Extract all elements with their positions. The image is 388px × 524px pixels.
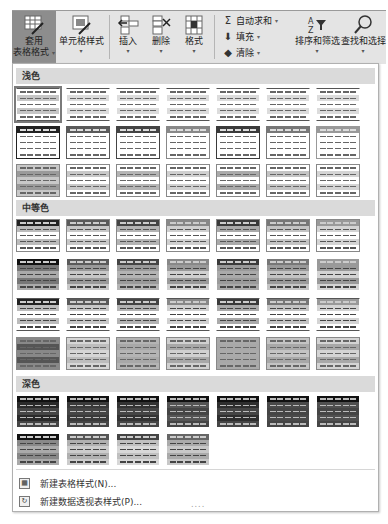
table-style-thumbnail[interactable] [66, 298, 110, 331]
table-style-thumbnail[interactable] [16, 298, 60, 331]
cell-styles-label: 单元格样式 [59, 36, 104, 47]
fill-label: 填充 [236, 30, 254, 43]
chevron-down-icon: ▾ [257, 33, 260, 40]
format-cells-icon [183, 14, 205, 36]
table-style-thumbnail[interactable] [266, 164, 310, 197]
table-style-thumbnail[interactable] [166, 164, 210, 197]
chevron-down-icon: ▾ [79, 47, 82, 54]
table-style-thumbnail[interactable] [216, 395, 260, 428]
insert-cells-icon [117, 14, 139, 36]
table-style-thumbnail[interactable] [166, 395, 210, 428]
chevron-down-icon: ▾ [275, 17, 278, 24]
table-style-thumbnail[interactable] [66, 433, 110, 466]
section-header-light: 浅色 [16, 68, 375, 84]
table-style-thumbnail[interactable] [116, 258, 160, 291]
format-as-table-label-1: 套用 [25, 36, 43, 47]
table-style-thumbnail[interactable] [16, 258, 60, 291]
table-style-thumbnail[interactable] [116, 433, 160, 466]
table-style-thumbnail[interactable] [116, 219, 160, 252]
table-style-thumbnail[interactable] [116, 164, 160, 197]
section-header-dark: 深色 [16, 376, 375, 392]
chevron-down-icon: ▾ [126, 47, 129, 54]
find-select-label: 查找和选择 [341, 36, 386, 47]
sort-filter-button[interactable]: AZ 排序和筛选 ▾ [294, 11, 340, 63]
table-style-thumbnail[interactable] [16, 164, 60, 197]
cell-styles-icon [70, 14, 92, 36]
table-style-thumbnail[interactable] [216, 126, 260, 159]
table-style-thumbnail[interactable] [216, 219, 260, 252]
table-style-thumbnail[interactable] [316, 298, 360, 331]
table-style-thumbnail[interactable] [16, 88, 60, 121]
eraser-icon: ◆ [223, 47, 233, 58]
table-style-thumbnail[interactable] [316, 258, 360, 291]
cell-styles-button[interactable]: 单元格样式 ▾ [57, 11, 105, 63]
table-style-thumbnail[interactable] [216, 258, 260, 291]
table-style-thumbnail[interactable] [66, 164, 110, 197]
table-style-thumbnail[interactable] [316, 219, 360, 252]
table-style-thumbnail[interactable] [266, 88, 310, 121]
table-style-thumbnail[interactable] [116, 298, 160, 331]
table-style-thumbnail[interactable] [166, 337, 210, 370]
clear-button[interactable]: ◆ 清除 ▾ [223, 46, 260, 59]
format-button[interactable]: 格式 ▾ [178, 11, 210, 63]
sigma-icon: Σ [223, 15, 233, 26]
table-style-thumbnail[interactable] [266, 219, 310, 252]
table-style-thumbnail[interactable] [66, 88, 110, 121]
table-style-thumbnail[interactable] [166, 433, 210, 466]
new-table-style-icon: ▦ [19, 478, 30, 489]
table-style-thumbnail[interactable] [116, 395, 160, 428]
table-style-thumbnail[interactable] [266, 258, 310, 291]
table-style-thumbnail[interactable] [316, 337, 360, 370]
table-style-thumbnail[interactable] [266, 298, 310, 331]
table-style-thumbnail[interactable] [66, 337, 110, 370]
find-select-button[interactable]: 查找和选择 ▾ [340, 11, 386, 63]
autosum-button[interactable]: Σ 自动求和 ▾ [223, 14, 278, 27]
table-style-thumbnail[interactable] [316, 126, 360, 159]
table-style-thumbnail[interactable] [316, 164, 360, 197]
table-style-thumbnail[interactable] [216, 88, 260, 121]
format-as-table-button[interactable]: 套用 表格格式 ▾ [12, 11, 56, 63]
table-style-thumbnail[interactable] [16, 395, 60, 428]
table-style-thumbnail[interactable] [216, 298, 260, 331]
new-pivot-style-icon: ↻ [19, 496, 30, 507]
table-style-thumbnail[interactable] [116, 126, 160, 159]
divider [214, 15, 215, 59]
delete-label: 删除 [152, 36, 170, 47]
table-style-thumbnail[interactable] [216, 164, 260, 197]
format-label: 格式 [185, 36, 203, 47]
table-style-thumbnail[interactable] [116, 337, 160, 370]
table-style-thumbnail[interactable] [316, 88, 360, 121]
table-style-thumbnail[interactable] [16, 126, 60, 159]
table-style-thumbnail[interactable] [66, 219, 110, 252]
table-style-thumbnail[interactable] [266, 337, 310, 370]
table-style-thumbnail[interactable] [16, 433, 60, 466]
table-style-thumbnail[interactable] [66, 395, 110, 428]
svg-text:Z: Z [308, 26, 314, 35]
table-style-thumbnail[interactable] [216, 337, 260, 370]
insert-button[interactable]: 插入 ▾ [112, 11, 144, 63]
table-style-thumbnail[interactable] [166, 258, 210, 291]
new-pivot-style-item[interactable]: ↻ 新建数据透视表样式(P)... [19, 492, 142, 510]
table-style-thumbnail[interactable] [16, 219, 60, 252]
autosum-label: 自动求和 [236, 14, 272, 27]
delete-cells-icon [150, 14, 172, 36]
table-style-thumbnail[interactable] [66, 258, 110, 291]
table-style-thumbnail[interactable] [16, 337, 60, 370]
table-style-thumbnail[interactable] [266, 126, 310, 159]
fill-down-icon: ⬇ [223, 31, 233, 42]
new-table-style-label: 新建表格样式(N)... [40, 477, 116, 490]
table-style-thumbnail[interactable] [266, 395, 310, 428]
fill-button[interactable]: ⬇ 填充 ▾ [223, 30, 260, 43]
table-style-thumbnail[interactable] [166, 298, 210, 331]
divider [16, 469, 375, 470]
resize-grip[interactable]: .... [191, 500, 205, 509]
chevron-down-icon: ▾ [159, 47, 162, 54]
table-style-thumbnail[interactable] [316, 395, 360, 428]
table-style-thumbnail[interactable] [166, 219, 210, 252]
table-style-thumbnail[interactable] [116, 88, 160, 121]
table-style-thumbnail[interactable] [66, 126, 110, 159]
new-table-style-item[interactable]: ▦ 新建表格样式(N)... [19, 474, 116, 492]
table-style-thumbnail[interactable] [166, 126, 210, 159]
delete-button[interactable]: 删除 ▾ [145, 11, 177, 63]
table-style-thumbnail[interactable] [166, 88, 210, 121]
